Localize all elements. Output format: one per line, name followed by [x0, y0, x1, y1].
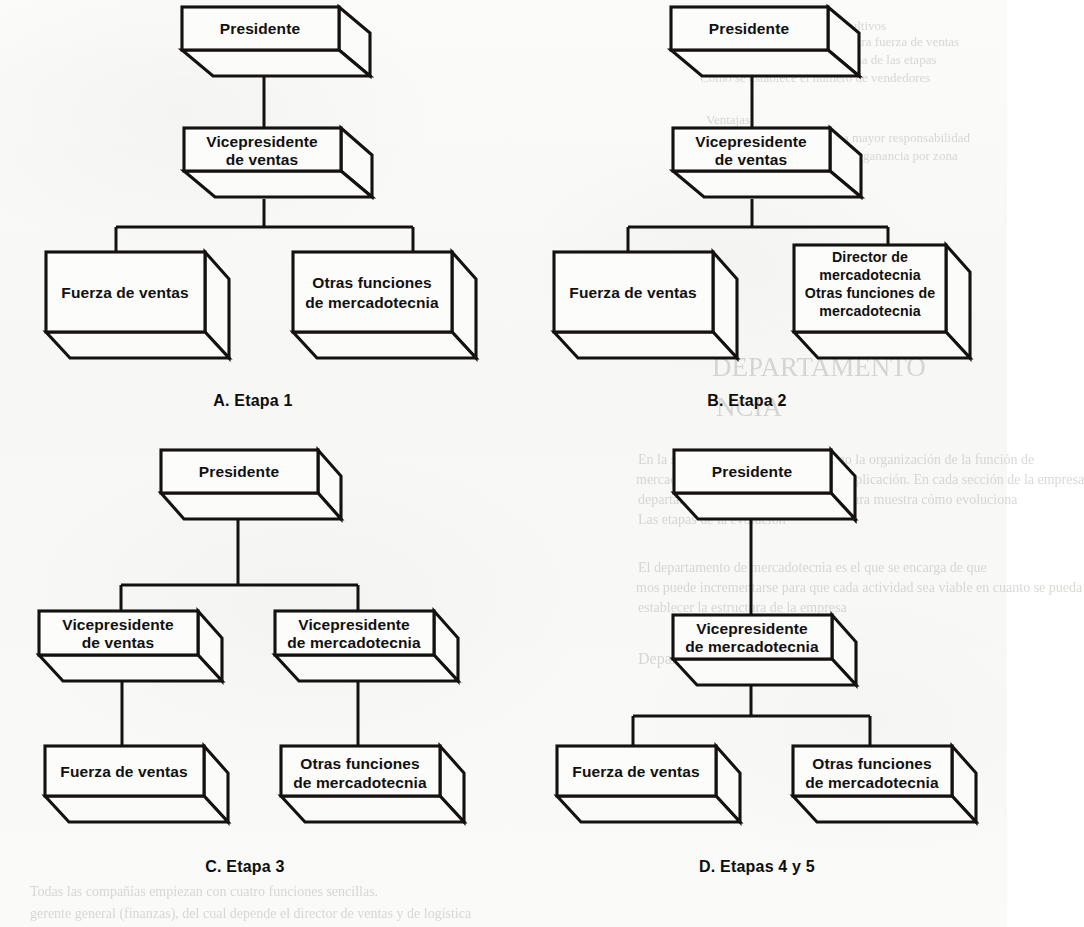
node-b-director-label-4: mercadotecnia: [819, 303, 920, 319]
node-a-vp-ventas-label-1: Vicepresidente: [206, 133, 318, 150]
diagram-d: Presidente Vicepresidente de mercadotecn…: [557, 450, 976, 875]
diagram-b: Presidente Vicepresidente de ventas Fuer…: [554, 7, 970, 409]
node-b-vp-ventas-label-1: Vicepresidente: [695, 133, 807, 150]
node-b-presidente[interactable]: Presidente: [671, 7, 859, 76]
node-b-director-mercadotecnia[interactable]: Director de mercadotecnia Otras funcione…: [794, 245, 970, 358]
node-b-presidente-label: Presidente: [709, 20, 790, 37]
node-c-vp-ventas[interactable]: Vicepresidente de ventas: [39, 611, 222, 681]
diagram-a: Presidente Vicepresidente de ventas Fuer…: [46, 7, 476, 409]
node-a-presidente[interactable]: Presidente: [182, 7, 370, 76]
node-d-vp-merc-label-1: Vicepresidente: [696, 620, 808, 637]
node-a-otras-label-1: Otras funciones: [312, 274, 432, 291]
node-c-otras-funciones[interactable]: Otras funciones de mercadotecnia: [281, 746, 464, 822]
node-c-vp-mercadotecnia[interactable]: Vicepresidente de mercadotecnia: [275, 611, 458, 681]
node-d-presidente-label: Presidente: [712, 463, 793, 480]
node-a-presidente-label: Presidente: [220, 20, 301, 37]
node-a-vp-ventas-label-2: de ventas: [226, 151, 298, 168]
diagram-c: Presidente Vicepresidente de ventas Vice…: [39, 450, 464, 875]
caption-a: A. Etapa 1: [213, 392, 292, 409]
node-a-fuerza-de-ventas[interactable]: Fuerza de ventas: [46, 252, 229, 358]
caption-d: D. Etapas 4 y 5: [699, 858, 815, 875]
node-a-otras-funciones[interactable]: Otras funciones de mercadotecnia: [293, 252, 476, 358]
node-b-fuerza-label: Fuerza de ventas: [569, 284, 696, 301]
edge-a-vp-children: [116, 199, 413, 252]
node-b-vp-ventas[interactable]: Vicepresidente de ventas: [673, 128, 861, 197]
node-b-director-label-2: mercadotecnia: [819, 267, 920, 283]
node-a-otras-label-2: de mercadotecnia: [305, 294, 439, 311]
node-d-otras-label-2: de mercadotecnia: [805, 774, 939, 791]
node-c-fuerza-label: Fuerza de ventas: [60, 763, 187, 780]
node-d-fuerza-de-ventas[interactable]: Fuerza de ventas: [557, 746, 740, 822]
edge-c-presidente-vps: [121, 518, 358, 617]
node-d-otras-funciones[interactable]: Otras funciones de mercadotecnia: [793, 746, 976, 822]
node-c-presidente-label: Presidente: [199, 463, 280, 480]
node-b-director-label-1: Director de: [832, 249, 908, 265]
caption-b: B. Etapa 2: [707, 392, 786, 409]
node-d-otras-label-1: Otras funciones: [812, 755, 932, 772]
node-d-vp-merc-label-2: de mercadotecnia: [685, 638, 819, 655]
node-c-presidente[interactable]: Presidente: [161, 450, 341, 519]
node-b-fuerza-de-ventas[interactable]: Fuerza de ventas: [554, 252, 737, 358]
node-c-vp-merc-label-2: de mercadotecnia: [287, 634, 421, 651]
node-a-fuerza-label: Fuerza de ventas: [61, 284, 188, 301]
caption-c: C. Etapa 3: [205, 858, 284, 875]
node-c-fuerza-de-ventas[interactable]: Fuerza de ventas: [45, 746, 228, 822]
node-d-presidente[interactable]: Presidente: [674, 450, 855, 520]
node-a-vp-ventas[interactable]: Vicepresidente de ventas: [184, 128, 372, 197]
node-d-fuerza-label: Fuerza de ventas: [572, 763, 699, 780]
node-c-vp-merc-label-1: Vicepresidente: [298, 616, 410, 633]
node-b-director-label-3: Otras funciones de: [805, 285, 935, 301]
edge-d-vp-children: [633, 686, 870, 748]
node-c-vp-ventas-label-2: de ventas: [82, 634, 154, 651]
node-c-vp-ventas-label-1: Vicepresidente: [62, 616, 174, 633]
node-b-vp-ventas-label-2: de ventas: [715, 151, 787, 168]
node-d-vp-mercadotecnia[interactable]: Vicepresidente de mercadotecnia: [673, 615, 856, 685]
node-c-otras-label-2: de mercadotecnia: [293, 774, 427, 791]
node-c-otras-label-1: Otras funciones: [300, 755, 420, 772]
